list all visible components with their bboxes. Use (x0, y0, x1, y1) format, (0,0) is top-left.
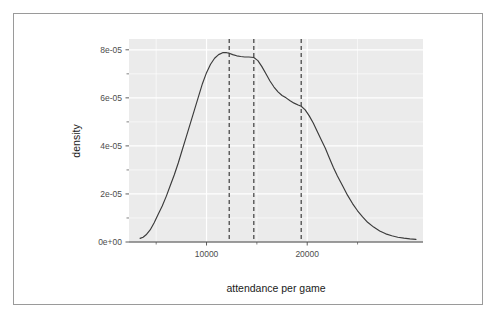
figure-frame: 1000020000 0e+002e-054e-056e-058e-05 att… (13, 13, 483, 305)
x-axis-tick-labels: 1000020000 (195, 249, 320, 259)
y-tick-label: 8e-05 (100, 45, 122, 55)
x-axis-title: attendance per game (226, 282, 325, 294)
y-tick-label: 4e-05 (100, 141, 122, 151)
y-tick-label: 2e-05 (100, 189, 122, 199)
y-axis-title: density (70, 124, 82, 158)
plot-panel-background (129, 39, 423, 242)
plot-svg: 1000020000 0e+002e-054e-056e-058e-05 att… (14, 14, 484, 306)
y-axis-tick-labels: 0e+002e-054e-056e-058e-05 (98, 45, 122, 247)
y-tick-label: 6e-05 (100, 93, 122, 103)
x-tick-label: 20000 (295, 249, 319, 259)
y-axis-ticks (126, 50, 130, 242)
y-tick-label: 0e+00 (98, 237, 122, 247)
density-plot: 1000020000 0e+002e-054e-056e-058e-05 att… (14, 14, 484, 306)
x-tick-label: 10000 (195, 249, 219, 259)
